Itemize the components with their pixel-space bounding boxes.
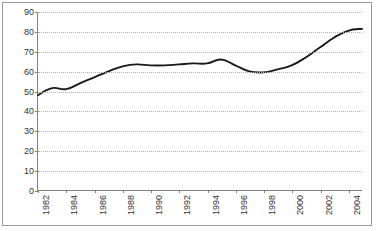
y-axis-tick xyxy=(35,131,38,132)
x-axis-tick xyxy=(66,190,67,193)
y-axis-label: 60 xyxy=(24,67,34,76)
y-gridline xyxy=(38,72,362,73)
x-axis-tick xyxy=(264,190,265,193)
x-axis-label: 2000 xyxy=(296,195,305,215)
series-line-svg xyxy=(38,12,362,190)
y-gridline xyxy=(38,12,362,13)
x-axis-tick xyxy=(236,190,237,193)
y-axis-tick xyxy=(35,151,38,152)
y-axis-tick xyxy=(35,111,38,112)
y-gridline xyxy=(38,111,362,112)
y-axis-tick xyxy=(35,32,38,33)
x-axis-label: 1982 xyxy=(42,195,51,215)
y-axis-tick xyxy=(35,12,38,13)
x-axis-label: 1992 xyxy=(183,195,192,215)
x-axis-label: 1998 xyxy=(268,195,277,215)
x-axis-tick xyxy=(151,190,152,193)
x-axis-label: 2004 xyxy=(353,195,362,215)
x-axis-tick xyxy=(321,190,322,193)
y-axis-label: 50 xyxy=(24,87,34,96)
x-axis-label: 1994 xyxy=(212,195,221,215)
x-axis-tick xyxy=(95,190,96,193)
x-axis-label: 1988 xyxy=(127,195,136,215)
y-axis-label: 90 xyxy=(24,8,34,17)
x-axis-tick xyxy=(179,190,180,193)
x-axis-tick xyxy=(208,190,209,193)
y-axis-label: 40 xyxy=(24,107,34,116)
x-axis-tick xyxy=(123,190,124,193)
chart-figure: 0102030405060708090198219841986198819901… xyxy=(0,0,376,231)
series-line-path xyxy=(38,29,362,95)
x-axis-label: 1986 xyxy=(99,195,108,215)
x-axis-tick xyxy=(349,190,350,193)
x-axis-tick xyxy=(292,190,293,193)
x-axis-label: 1996 xyxy=(240,195,249,215)
y-gridline xyxy=(38,52,362,53)
y-axis-tick xyxy=(35,52,38,53)
figure-border: 0102030405060708090198219841986198819901… xyxy=(2,2,372,226)
y-axis-tick xyxy=(35,72,38,73)
plot-area: 0102030405060708090198219841986198819901… xyxy=(37,12,362,191)
y-axis-label: 10 xyxy=(24,167,34,176)
x-axis-tick xyxy=(38,190,39,193)
y-axis-label: 80 xyxy=(24,27,34,36)
y-axis-tick xyxy=(35,92,38,93)
y-axis-label: 70 xyxy=(24,47,34,56)
y-axis-label: 20 xyxy=(24,147,34,156)
y-gridline xyxy=(38,32,362,33)
x-axis-label: 1984 xyxy=(70,195,79,215)
x-axis-label: 2002 xyxy=(325,195,334,215)
y-axis-tick xyxy=(35,171,38,172)
y-gridline xyxy=(38,131,362,132)
x-axis-label: 1990 xyxy=(155,195,164,215)
y-gridline xyxy=(38,171,362,172)
y-axis-label: 0 xyxy=(29,187,34,196)
y-gridline xyxy=(38,92,362,93)
y-axis-label: 30 xyxy=(24,127,34,136)
y-gridline xyxy=(38,151,362,152)
